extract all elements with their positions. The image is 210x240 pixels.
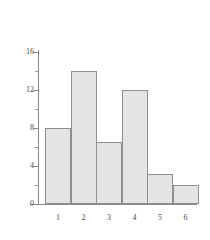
y-tick-label-12: 12	[26, 86, 34, 94]
x-axis-line	[30, 204, 197, 205]
y-tick-label-4: 4	[30, 162, 34, 170]
x-tick-label-3: 3	[96, 213, 122, 222]
x-tick-label-1: 1	[45, 213, 71, 222]
x-tick-label-4: 4	[122, 213, 148, 222]
x-tick-label-5: 5	[147, 213, 173, 222]
plot-area: 0 4 8 12 16 1 2 3 4 5 6	[0, 0, 210, 240]
bar-4	[122, 90, 148, 204]
x-tick-label-6: 6	[173, 213, 199, 222]
y-tick-label-16: 16	[26, 48, 34, 56]
y-tick-minor-14	[35, 71, 39, 72]
bar-5	[147, 174, 173, 204]
bar-2	[71, 71, 97, 204]
bar-6	[173, 185, 199, 204]
bar-3	[96, 142, 122, 204]
bar-1	[45, 128, 71, 204]
y-tick-minor-6	[35, 147, 39, 148]
y-tick-minor-2	[35, 185, 39, 186]
y-tick-label-0: 0	[30, 200, 34, 208]
x-tick-label-2: 2	[71, 213, 97, 222]
histogram-chart: 0 4 8 12 16 1 2 3 4 5 6	[0, 0, 210, 240]
y-tick-minor-10	[35, 109, 39, 110]
y-tick-label-8: 8	[30, 124, 34, 132]
